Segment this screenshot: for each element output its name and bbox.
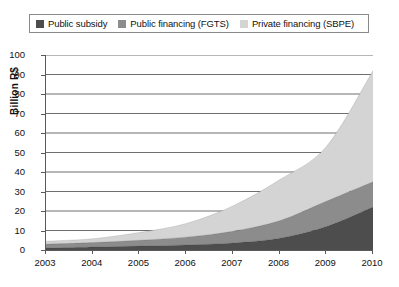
y-axis-tick-label: 40 xyxy=(0,167,25,177)
x-axis-tick-label: 2004 xyxy=(72,258,112,268)
y-axis-tick-label: 50 xyxy=(0,148,25,158)
x-axis-tick-label: 2007 xyxy=(212,258,252,268)
legend-item-public-financing-fgts: Public financing (FGTS) xyxy=(118,19,229,29)
legend-label: Public subsidy xyxy=(48,19,107,29)
chart-figure: Public subsidy Public financing (FGTS) P… xyxy=(0,0,399,287)
stacked-area-chart xyxy=(46,55,373,250)
x-axis-tick-label: 2003 xyxy=(25,258,65,268)
legend-item-public-subsidy: Public subsidy xyxy=(36,19,107,29)
plot-area xyxy=(45,55,373,251)
x-axis-tick-label: 2010 xyxy=(352,258,392,268)
y-axis-tick-label: 100 xyxy=(0,50,25,60)
legend-swatch-icon xyxy=(240,20,248,28)
legend-swatch-icon xyxy=(36,20,44,28)
y-axis-tick-label: 0 xyxy=(0,245,25,255)
legend-label: Public financing (FGTS) xyxy=(130,19,229,29)
legend-label: Private financing (SBPE) xyxy=(252,19,354,29)
chart-legend: Public subsidy Public financing (FGTS) P… xyxy=(29,14,369,33)
x-axis-tick-label: 2005 xyxy=(118,258,158,268)
legend-swatch-icon xyxy=(118,20,126,28)
y-axis-tick-label: 60 xyxy=(0,128,25,138)
legend-item-private-financing-sbpe: Private financing (SBPE) xyxy=(240,19,354,29)
y-axis-tick-label: 10 xyxy=(0,226,25,236)
x-axis-tick-label: 2006 xyxy=(165,258,205,268)
x-axis-tick-label: 2008 xyxy=(259,258,299,268)
y-axis-tick-label: 30 xyxy=(0,187,25,197)
y-axis-title: Billion R$ xyxy=(9,67,20,115)
x-axis-tick-label: 2009 xyxy=(305,258,345,268)
y-axis-tick-label: 20 xyxy=(0,206,25,216)
